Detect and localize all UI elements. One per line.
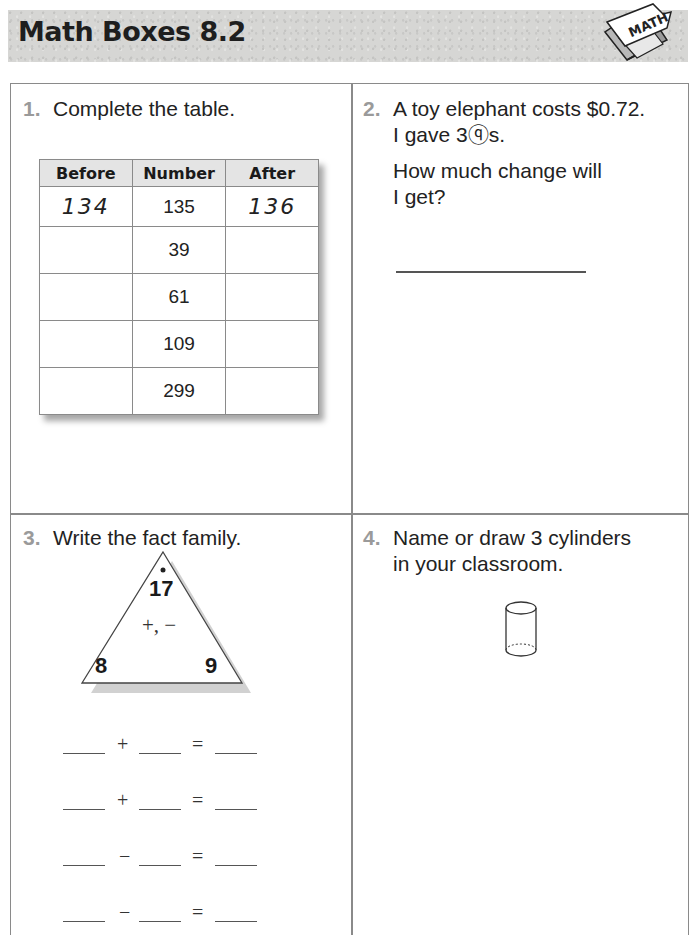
problem-number: 3. (23, 525, 53, 551)
fact-row: − = (63, 842, 263, 872)
problem-text-line: A toy elephant costs $0.72. (393, 97, 645, 120)
column-header-number: Number (132, 160, 226, 187)
math-boxes-grid: 1.Complete the table. Before Number Afte… (10, 83, 689, 935)
answer-blank[interactable] (215, 865, 257, 866)
before-cell[interactable] (40, 227, 133, 274)
problem-number: 4. (363, 525, 393, 551)
page-title: Math Boxes 8.2 (18, 16, 246, 47)
operator: + (117, 789, 128, 812)
table-row: 39 (40, 227, 319, 274)
after-cell[interactable]: 136 (226, 187, 319, 227)
after-cell[interactable] (226, 274, 319, 321)
equals-sign: = (192, 789, 203, 812)
table-row: 299 (40, 368, 319, 415)
triangle-left-number: 8 (95, 653, 107, 679)
operator: + (117, 733, 128, 756)
equals-sign: = (192, 845, 203, 868)
answer-blank[interactable] (63, 753, 105, 754)
operator: − (119, 901, 130, 924)
fact-row: − = (63, 898, 263, 928)
before-cell[interactable] (40, 274, 133, 321)
answer-line[interactable] (396, 271, 586, 273)
answer-blank[interactable] (139, 753, 181, 754)
fact-triangle: 17 +, − 8 9 (71, 546, 251, 696)
before-cell[interactable] (40, 368, 133, 415)
problem-text-line: Name or draw 3 cylinders (393, 526, 631, 549)
dot-icon (161, 568, 166, 573)
problem-prompt: Complete the table. (53, 97, 235, 120)
before-cell[interactable]: 134 (40, 187, 133, 227)
equals-sign: = (192, 733, 203, 756)
problem-2: 2.A toy elephant costs $0.72. I gave 3ⓠs… (363, 96, 683, 210)
before-cell[interactable] (40, 321, 133, 368)
after-cell[interactable] (226, 321, 319, 368)
problem-1: 1.Complete the table. (23, 96, 235, 122)
problem-text-line: I gave 3ⓠs. (363, 122, 683, 148)
triangle-operations: +, − (142, 613, 176, 638)
answer-blank[interactable] (215, 921, 257, 922)
problem-number: 1. (23, 96, 53, 122)
answer-blank[interactable] (139, 809, 181, 810)
answer-blank[interactable] (215, 753, 257, 754)
after-cell[interactable] (226, 227, 319, 274)
answer-blank[interactable] (63, 809, 105, 810)
answer-blank[interactable] (139, 921, 181, 922)
table-row: 61 (40, 274, 319, 321)
number-cell: 109 (132, 321, 226, 368)
problem-number: 2. (363, 96, 393, 122)
answer-blank[interactable] (63, 921, 105, 922)
equals-sign: = (192, 901, 203, 924)
number-cell: 39 (132, 227, 226, 274)
after-cell[interactable] (226, 368, 319, 415)
cylinder-icon (503, 600, 539, 660)
before-after-table: Before Number After 134 135 136 39 61 (39, 159, 319, 415)
column-header-after: After (226, 160, 319, 187)
math-book-icon: MATH (597, 2, 675, 68)
column-header-before: Before (40, 160, 133, 187)
table-row: 109 (40, 321, 319, 368)
number-cell: 299 (132, 368, 226, 415)
operator: − (119, 845, 130, 868)
fact-row: + = (63, 730, 263, 760)
problem-text-line: I get? (363, 184, 683, 210)
triangle-right-number: 9 (205, 653, 217, 679)
answer-blank[interactable] (215, 809, 257, 810)
triangle-top-number: 17 (149, 576, 173, 602)
vertical-divider (351, 84, 353, 935)
problem-text-line: How much change will (363, 158, 683, 184)
answer-blank[interactable] (63, 865, 105, 866)
table-row: 134 135 136 (40, 187, 319, 227)
number-cell: 135 (132, 187, 226, 227)
problem-4: 4.Name or draw 3 cylinders in your class… (363, 525, 683, 577)
fact-row: + = (63, 786, 263, 816)
problem-text-line: in your classroom. (363, 551, 683, 577)
answer-blank[interactable] (139, 865, 181, 866)
horizontal-divider (11, 513, 688, 515)
number-cell: 61 (132, 274, 226, 321)
